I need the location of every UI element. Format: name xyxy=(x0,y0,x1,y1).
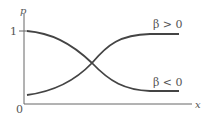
series-label-beta-negative: β < 0 xyxy=(153,76,183,89)
y-tick-one-label: 1 xyxy=(10,25,17,38)
chart-canvas: p x 1 0 β > 0 β < 0 xyxy=(0,0,209,118)
y-axis-label: p xyxy=(20,5,27,16)
series-label-beta-positive: β > 0 xyxy=(153,18,183,31)
logistic-curves-chart: p x 1 0 β > 0 β < 0 xyxy=(0,0,209,118)
x-axis-label: x xyxy=(195,99,201,110)
origin-label: 0 xyxy=(16,103,23,116)
